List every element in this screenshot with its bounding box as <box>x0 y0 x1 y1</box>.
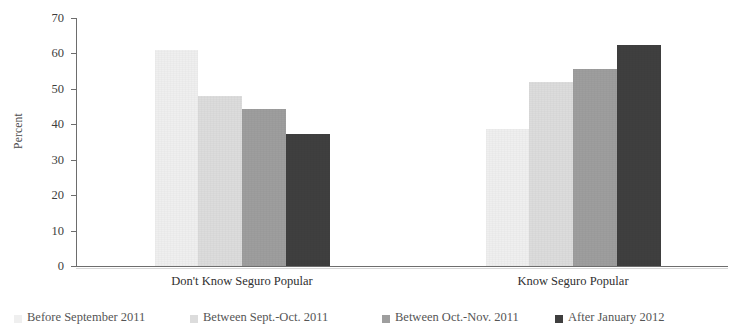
bar-texture <box>529 82 573 266</box>
bar <box>198 96 242 266</box>
legend-label: After January 2012 <box>568 310 665 325</box>
y-tick-label-50: 50 <box>52 81 65 96</box>
x-axis-line <box>76 266 728 267</box>
x-axis-line-shadow <box>76 268 728 269</box>
y-tick-40: 40 <box>71 124 77 125</box>
bar-texture <box>573 69 617 266</box>
bar-texture <box>155 50 199 266</box>
bar-texture <box>617 45 661 266</box>
legend-swatch-icon <box>555 315 563 323</box>
y-tick-label-20: 20 <box>52 188 65 203</box>
chart-legend: Before September 2011Between Sept.-Oct. … <box>0 310 741 330</box>
bar-texture <box>198 96 242 266</box>
legend-swatch-icon <box>382 315 390 323</box>
y-tick-50: 50 <box>71 89 77 90</box>
y-tick-20: 20 <box>71 195 77 196</box>
bar <box>617 45 661 266</box>
y-tick-label-30: 30 <box>52 152 65 167</box>
legend-item[interactable]: Between Oct.-Nov. 2011 <box>382 310 519 325</box>
bar-texture <box>486 129 530 266</box>
legend-item[interactable]: After January 2012 <box>555 310 665 325</box>
bar <box>486 129 530 266</box>
legend-item[interactable]: Between Sept.-Oct. 2011 <box>190 310 328 325</box>
y-tick-0: 0 <box>71 266 77 267</box>
x-category-label: Know Seguro Popular <box>517 274 628 289</box>
legend-item[interactable]: Before September 2011 <box>14 310 145 325</box>
legend-swatch-icon <box>190 315 198 323</box>
y-tick-label-60: 60 <box>52 46 65 61</box>
bar <box>529 82 573 266</box>
bar-texture <box>242 109 286 266</box>
bar-texture <box>286 134 330 267</box>
legend-label: Before September 2011 <box>27 310 145 325</box>
y-tick-label-70: 70 <box>52 11 65 26</box>
y-axis-title: Percent <box>12 91 24 171</box>
bar <box>155 50 199 266</box>
bar <box>286 134 330 267</box>
y-tick-label-10: 10 <box>52 223 65 238</box>
y-tick-label-0: 0 <box>58 259 64 274</box>
y-tick-10: 10 <box>71 231 77 232</box>
bar-chart-figure: Percent 706050403020100 Don't Know Segur… <box>0 0 741 334</box>
legend-swatch-icon <box>14 315 22 323</box>
y-tick-60: 60 <box>71 53 77 54</box>
x-category-label: Don't Know Seguro Popular <box>171 274 312 289</box>
bar <box>242 109 286 266</box>
legend-label: Between Oct.-Nov. 2011 <box>395 310 519 325</box>
plot-area: 706050403020100 Don't Know Seguro Popula… <box>76 18 728 266</box>
y-tick-label-40: 40 <box>52 117 65 132</box>
legend-label: Between Sept.-Oct. 2011 <box>203 310 328 325</box>
y-tick-70: 70 <box>71 18 77 19</box>
y-tick-30: 30 <box>71 160 77 161</box>
bar <box>573 69 617 266</box>
